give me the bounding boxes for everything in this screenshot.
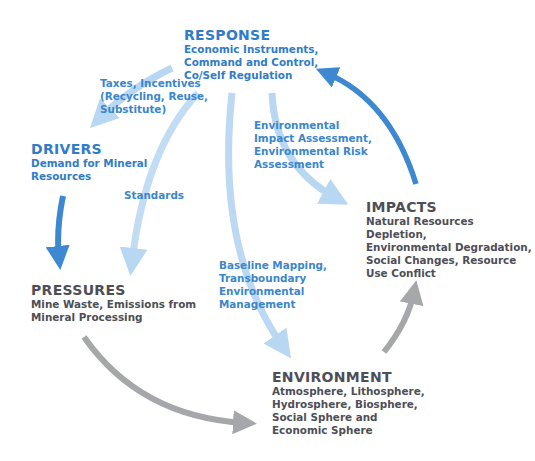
pressures-desc: Mine Waste, Emissions from Mineral Proce… (31, 298, 196, 324)
impacts-desc: Natural Resources Depletion, Environment… (366, 215, 535, 280)
node-response: RESPONSE Economic Instruments, Command a… (184, 27, 318, 82)
response-title: RESPONSE (184, 27, 318, 43)
arrow-drivers-to-pressures (58, 196, 63, 258)
edge-label-eia: Environmental Impact Assessment, Environ… (254, 119, 372, 171)
arrow-pressures-to-environment (84, 337, 245, 423)
node-drivers: DRIVERS Demand for Mineral Resources (31, 141, 147, 183)
arrow-environment-to-impacts (384, 292, 414, 352)
environment-desc: Atmosphere, Lithosphere, Hydrosphere, Bi… (272, 385, 425, 437)
pressures-title: PRESSURES (31, 282, 196, 298)
node-environment: ENVIRONMENT Atmosphere, Lithosphere, Hyd… (272, 369, 425, 437)
impacts-title: IMPACTS (366, 199, 535, 215)
drivers-title: DRIVERS (31, 141, 147, 157)
node-impacts: IMPACTS Natural Resources Depletion, Env… (366, 199, 535, 280)
edge-label-taxes: Taxes, Incentives (Recycling, Reuse, Sub… (100, 77, 208, 116)
environment-title: ENVIRONMENT (272, 369, 425, 385)
edge-label-standards: Standards (124, 189, 184, 202)
edge-label-baseline: Baseline Mapping, Transboundary Environm… (219, 259, 327, 311)
drivers-desc: Demand for Mineral Resources (31, 157, 147, 183)
node-pressures: PRESSURES Mine Waste, Emissions from Min… (31, 282, 196, 324)
